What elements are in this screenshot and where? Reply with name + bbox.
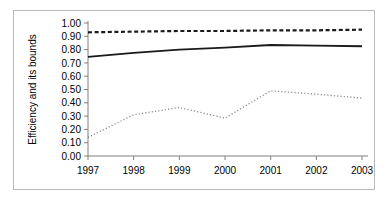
y-tick-label: 0.40: [62, 97, 82, 108]
y-tick-label: 0.30: [62, 111, 82, 122]
x-tick-label: 1998: [123, 165, 146, 176]
y-tick-label: 1.00: [62, 18, 82, 29]
y-tick-label: 0.00: [62, 151, 82, 162]
x-tick-label: 2000: [214, 165, 237, 176]
x-tick-label: 2001: [260, 165, 283, 176]
series-line-efficiency: [88, 45, 362, 57]
figure-canvas: 0.000.100.200.300.400.500.600.700.800.90…: [0, 0, 388, 200]
chart-frame: 0.000.100.200.300.400.500.600.700.800.90…: [13, 10, 375, 190]
y-tick-label: 0.90: [62, 31, 82, 42]
series-line-upper-bound: [88, 30, 362, 33]
x-tick-label: 2002: [305, 165, 328, 176]
x-tick-label: 2003: [351, 165, 374, 176]
y-tick-label: 0.60: [62, 71, 82, 82]
y-tick-label: 0.70: [62, 58, 82, 69]
x-tick-label: 1997: [77, 165, 100, 176]
y-tick-label: 0.80: [62, 44, 82, 55]
y-tick-label: 0.20: [62, 124, 82, 135]
y-tick-label: 0.10: [62, 137, 82, 148]
series-line-lower-bound: [88, 91, 362, 138]
line-chart: 0.000.100.200.300.400.500.600.700.800.90…: [14, 11, 374, 189]
x-tick-label: 1999: [168, 165, 191, 176]
y-tick-label: 0.50: [62, 84, 82, 95]
y-axis-title: Efficiency and its bounds: [27, 34, 38, 144]
